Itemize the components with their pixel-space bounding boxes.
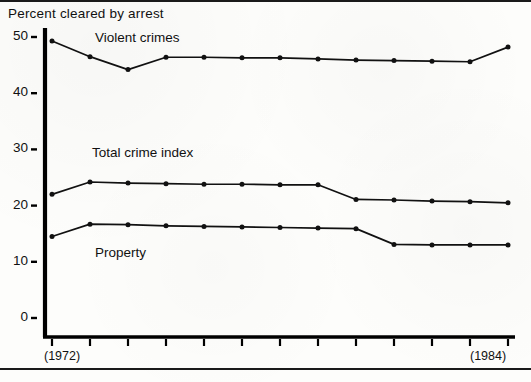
y-axis-tick-label: 10	[2, 253, 28, 268]
data-point-marker	[202, 182, 207, 187]
y-axis-tick-label: 20	[2, 197, 28, 212]
data-point-marker	[126, 67, 131, 72]
data-point-marker	[88, 222, 93, 227]
data-point-marker	[468, 242, 473, 247]
data-point-marker	[50, 192, 55, 197]
data-point-marker	[392, 242, 397, 247]
data-point-marker	[126, 181, 131, 186]
y-axis-tick-label: 30	[2, 140, 28, 155]
data-point-marker	[506, 242, 511, 247]
data-point-marker	[164, 55, 169, 60]
series-label-0: Violent crimes	[95, 30, 180, 45]
data-point-marker	[430, 242, 435, 247]
data-series-group	[50, 38, 511, 247]
data-point-marker	[316, 56, 321, 61]
data-point-marker	[392, 197, 397, 202]
data-point-marker	[468, 59, 473, 64]
data-point-marker	[278, 225, 283, 230]
data-point-marker	[240, 224, 245, 229]
data-point-marker	[506, 200, 511, 205]
data-point-marker	[240, 182, 245, 187]
data-point-marker	[278, 182, 283, 187]
data-point-marker	[88, 180, 93, 185]
data-point-marker	[354, 226, 359, 231]
data-point-marker	[430, 199, 435, 204]
y-axis-tick-label: 40	[2, 84, 28, 99]
tick-marks-group	[31, 37, 508, 346]
data-point-marker	[126, 222, 131, 227]
series-label-1: Total crime index	[92, 145, 193, 160]
data-point-marker	[430, 59, 435, 64]
data-point-marker	[202, 224, 207, 229]
bottom-divider-rule	[0, 368, 531, 370]
series-line-0	[52, 41, 508, 70]
data-point-marker	[240, 55, 245, 60]
data-point-marker	[50, 234, 55, 239]
x-axis-start-year-label: (1972)	[44, 349, 80, 363]
chart-plot-area	[0, 0, 531, 382]
data-point-marker	[164, 181, 169, 186]
data-point-marker	[354, 58, 359, 63]
y-axis-tick-label: 0	[2, 309, 28, 324]
data-point-marker	[278, 55, 283, 60]
series-label-2: Property	[95, 245, 146, 260]
data-point-marker	[316, 182, 321, 187]
y-axis-tick-label: 50	[2, 28, 28, 43]
data-point-marker	[88, 54, 93, 59]
chart-page: Percent cleared by arrest 01020304050 (1…	[0, 0, 531, 382]
data-point-marker	[164, 223, 169, 228]
data-point-marker	[354, 197, 359, 202]
data-point-marker	[506, 45, 511, 50]
data-point-marker	[316, 226, 321, 231]
x-axis-end-year-label: (1984)	[470, 349, 506, 363]
data-point-marker	[468, 199, 473, 204]
data-point-marker	[392, 58, 397, 63]
data-point-marker	[202, 55, 207, 60]
data-point-marker	[50, 38, 55, 43]
